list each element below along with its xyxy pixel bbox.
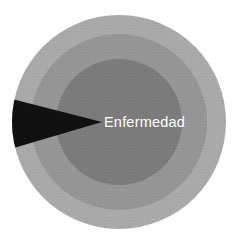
inner-circle-label: Enfermedad — [104, 114, 185, 130]
concentric-diagram: Enfermedad — [0, 0, 238, 245]
diagram-canvas: Enfermedad — [0, 0, 238, 245]
